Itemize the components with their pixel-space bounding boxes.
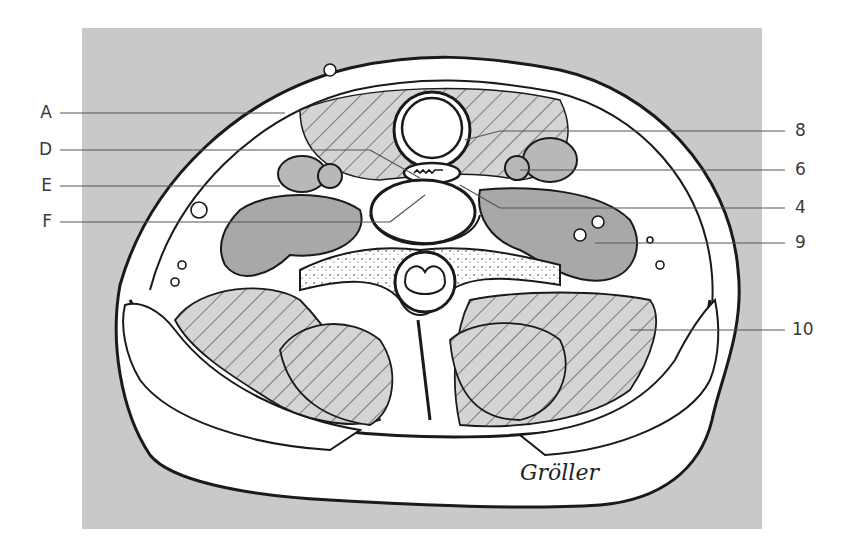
trachea-lumen bbox=[402, 98, 462, 158]
label-F: F bbox=[22, 213, 52, 230]
spinal-cord bbox=[405, 266, 445, 294]
neck-cross-section-illustration: Gröller bbox=[0, 0, 855, 552]
carotid-left bbox=[318, 164, 342, 188]
internal-jugular-right bbox=[523, 138, 577, 182]
artist-signature: Gröller bbox=[520, 460, 600, 485]
label-4: 4 bbox=[795, 199, 806, 216]
label-10: 10 bbox=[792, 321, 814, 338]
label-D: D bbox=[22, 141, 52, 158]
label-A: A bbox=[22, 104, 52, 121]
label-8: 8 bbox=[795, 122, 806, 139]
label-E: E bbox=[22, 177, 52, 194]
label-6: 6 bbox=[795, 161, 806, 178]
label-9: 9 bbox=[795, 234, 806, 251]
carotid-right bbox=[505, 156, 529, 180]
